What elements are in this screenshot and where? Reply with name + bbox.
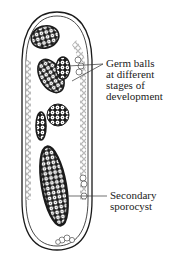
secondary-sporocyst-label: Secondary sporocyst — [110, 190, 156, 212]
sporocyst-diagram — [0, 0, 184, 257]
germ-balls-label-line-4: development — [106, 91, 163, 102]
germ-ball-thin — [36, 112, 46, 140]
germ-ball-small-oval — [56, 57, 70, 79]
germ-ball-round — [47, 104, 69, 126]
secondary-sporocyst-label-line-2: sporocyst — [110, 201, 156, 212]
germ-balls-label: Germ balls at different stages of develo… — [106, 58, 163, 102]
